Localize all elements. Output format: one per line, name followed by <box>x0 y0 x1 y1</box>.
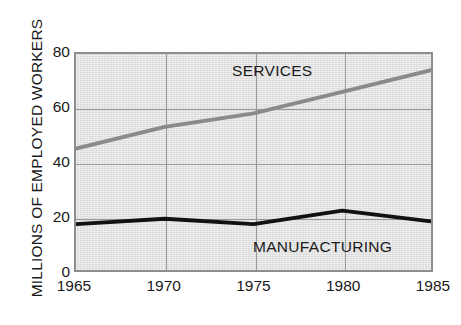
x-tick-label-1975: 1975 <box>224 278 284 294</box>
x-tick-label-1980: 1980 <box>313 278 373 294</box>
line-services <box>76 70 431 148</box>
y-tick-label-60: 60 <box>34 99 70 115</box>
y-tick-label-20: 20 <box>34 209 70 225</box>
employment-line-chart: MILLIONS OF EMPLOYED WORKERS 80 60 40 20… <box>0 0 461 325</box>
x-tick-label-1965: 1965 <box>44 278 104 294</box>
x-tick-label-1970: 1970 <box>134 278 194 294</box>
series-label-services: SERVICES <box>232 62 313 80</box>
line-manufacturing <box>76 211 431 225</box>
series-label-manufacturing: MANUFACTURING <box>253 238 392 256</box>
y-tick-label-80: 80 <box>34 44 70 60</box>
x-tick-label-1985: 1985 <box>403 278 461 294</box>
y-tick-label-40: 40 <box>34 154 70 170</box>
